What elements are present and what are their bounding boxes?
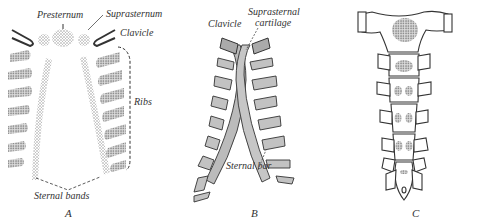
label-ribs: Ribs xyxy=(134,97,152,107)
label-presternum: Presternum xyxy=(37,10,83,20)
panel-a-drawing xyxy=(8,15,130,190)
panel-c-drawing xyxy=(358,11,452,200)
panel-letter-b: B xyxy=(251,207,258,219)
label-suprasternal-2: cartilage xyxy=(255,18,291,28)
label-suprasternal-1: Suprasternal xyxy=(248,7,300,17)
sternum-development-figure: Presternum Suprasternum Clavicle Ribs St… xyxy=(0,0,482,223)
panel-b-drawing xyxy=(194,28,294,202)
label-sternal-bands: Sternal bands xyxy=(34,191,89,201)
label-suprasternum: Suprasternum xyxy=(106,9,162,19)
label-sternal-bar: Sternal bar xyxy=(226,161,271,171)
label-clavicle-b: Clavicle xyxy=(208,19,241,29)
panel-letter-c: C xyxy=(412,207,419,219)
label-clavicle-a: Clavicle xyxy=(120,28,153,38)
panel-letter-a: A xyxy=(65,207,72,219)
